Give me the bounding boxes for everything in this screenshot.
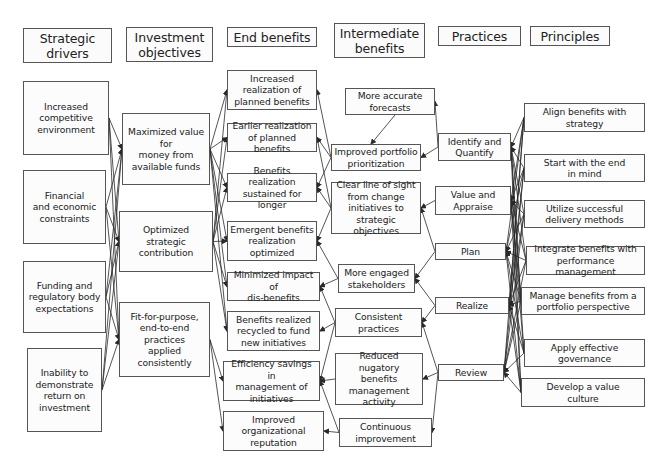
intermediate-benefit-box: More accurate forecasts <box>345 88 435 115</box>
intermediate-benefit-box: Clear line of sight from change initiati… <box>331 182 421 234</box>
arrow-o2-to-e1 <box>213 90 227 242</box>
arrow-p5-to-i5 <box>422 323 438 373</box>
strategic-driver-box: Inability to demonstrate return on inves… <box>27 348 102 432</box>
arrow-r1-to-p2 <box>511 118 524 201</box>
arrow-o1-to-e2 <box>210 138 227 150</box>
arrow-r1-to-p1 <box>511 118 524 148</box>
end-benefit-box: Benefits realized recycled to fund new i… <box>227 311 320 351</box>
intermediate-benefit-box: Continuous improvement <box>339 418 432 447</box>
arrow-d2-to-o3 <box>106 207 119 340</box>
arrow-r7-to-p1 <box>511 147 521 393</box>
arrow-d4-to-o3 <box>102 340 119 391</box>
arrow-d2-to-o2 <box>106 207 119 242</box>
practice-box: Value and Appraise <box>435 186 511 215</box>
arrow-r5-to-p4 <box>509 301 521 306</box>
arrow-r3-to-p3 <box>506 214 524 252</box>
investment-objective-box: Optimized strategic contribution <box>119 211 213 272</box>
strategic-driver-box: Financial and economic constraints <box>23 170 106 244</box>
arrow-i7-to-e8 <box>324 431 339 433</box>
arrow-p2-to-i3 <box>421 201 435 209</box>
arrow-r7-to-p2 <box>511 201 521 393</box>
arrow-i2-to-e2 <box>317 138 331 158</box>
arrow-d3-to-o3 <box>106 297 119 340</box>
arrow-r1-to-p4 <box>509 118 524 306</box>
intermediate-benefit-box: Improved portfolio prioritization <box>331 144 421 171</box>
principle-box: Align benefits with strategy <box>524 103 645 132</box>
column-header: Practices <box>438 26 521 46</box>
arrow-r7-to-p3 <box>506 252 521 393</box>
arrow-i6-to-e7 <box>320 379 335 381</box>
arrow-i5-to-e6 <box>320 323 335 332</box>
end-benefit-box: Improved organizational reputation <box>223 411 324 451</box>
arrow-i2-to-e3 <box>317 158 331 188</box>
end-benefit-box: Efficiency savings in management of init… <box>223 361 320 401</box>
arrow-d1-to-o2 <box>109 118 119 242</box>
end-benefit-box: Emergent benefits realization optimized <box>227 221 317 261</box>
arrow-p5-to-i6 <box>423 373 438 380</box>
arrow-o3-to-e8 <box>210 340 223 432</box>
arrow-i3-to-e2 <box>317 138 331 209</box>
arrow-r3-to-p2 <box>511 201 524 215</box>
arrow-r4-to-p3 <box>506 252 526 261</box>
investment-objective-box: Maximized value for money from available… <box>122 113 210 185</box>
column-header: Intermediate benefits <box>334 23 425 58</box>
arrow-r5-to-p3 <box>506 252 521 302</box>
column-header: Principles <box>530 26 610 46</box>
investment-objective-box: Fit-for-purpose, end-to-end practices ap… <box>119 302 210 377</box>
arrow-p3-to-i4 <box>415 252 435 279</box>
arrow-p4-to-i4 <box>415 279 435 306</box>
arrow-d1-to-o1 <box>109 118 122 149</box>
practice-box: Review <box>438 364 504 381</box>
arrow-i4-to-e5 <box>320 279 338 287</box>
arrow-i4-to-e4 <box>317 241 338 279</box>
arrow-r4-to-p5 <box>504 261 526 373</box>
arrow-p1-to-i2 <box>421 147 438 158</box>
end-benefit-box: Increased realization of planned benefit… <box>227 70 317 110</box>
strategic-driver-box: Increased competitive environment <box>23 81 109 155</box>
arrow-i2-to-e1 <box>317 90 331 158</box>
intermediate-benefit-box: Consistent practices <box>335 308 422 337</box>
arrow-r6-to-p1 <box>511 147 524 353</box>
arrow-d3-to-o2 <box>106 242 119 298</box>
practice-box: Realize <box>435 297 509 314</box>
arrow-o1-to-e1 <box>210 90 227 149</box>
intermediate-benefit-box: Reduced nugatory benefits management act… <box>335 353 423 405</box>
arrow-i5-to-e5 <box>320 287 335 323</box>
principle-box: Apply effective governance <box>524 339 645 367</box>
arrow-d1-to-o3 <box>109 118 119 340</box>
end-benefit-box: Earlier realization of planned benefits <box>227 123 317 152</box>
arrow-r6-to-p5 <box>504 353 524 373</box>
arrow-p4-to-i5 <box>422 306 435 323</box>
arrow-r2-to-p4 <box>509 168 524 306</box>
arrow-o2-to-e6 <box>213 242 227 332</box>
intermediate-benefit-box: More engaged stakeholders <box>338 264 415 293</box>
arrow-r3-to-p1 <box>511 147 524 214</box>
arrow-i3-to-e4 <box>317 208 331 241</box>
arrow-o1-to-e3 <box>210 149 227 188</box>
arrow-p5-to-i7 <box>432 373 438 433</box>
end-benefit-box: Benefits realization sustained for longe… <box>227 173 317 202</box>
arrow-i5-to-e7 <box>320 323 335 382</box>
arrow-d2-to-o1 <box>106 149 122 207</box>
arrow-r7-to-p5 <box>504 373 521 393</box>
arrow-r5-to-p2 <box>511 201 521 302</box>
arrow-o2-to-e5 <box>213 242 227 287</box>
column-header: Investment objectives <box>126 27 213 62</box>
principle-box: Develop a value culture <box>521 378 645 407</box>
benefits-management-diagram: Strategic driversInvestment objectivesEn… <box>0 0 667 470</box>
arrow-r6-to-p2 <box>511 201 524 354</box>
arrow-r2-to-p2 <box>511 168 524 201</box>
column-header: End benefits <box>227 27 317 47</box>
arrow-r5-to-p1 <box>511 147 521 301</box>
arrow-r2-to-p1 <box>511 147 524 168</box>
practice-box: Identify and Quantify <box>438 133 511 161</box>
practice-box: Plan <box>435 243 506 260</box>
arrow-o2-to-e3 <box>213 188 227 242</box>
arrow-i1-to-i2 <box>371 115 395 144</box>
principle-box: Integrate benefits with performance mana… <box>526 246 645 275</box>
arrow-i3-to-e3 <box>317 188 331 209</box>
principle-box: Manage benefits from a portfolio perspec… <box>521 287 645 315</box>
end-benefit-box: Minimized impact of dis-benefits <box>227 272 320 301</box>
arrow-p3-to-i3 <box>421 208 435 252</box>
column-header: Strategic drivers <box>23 28 112 63</box>
